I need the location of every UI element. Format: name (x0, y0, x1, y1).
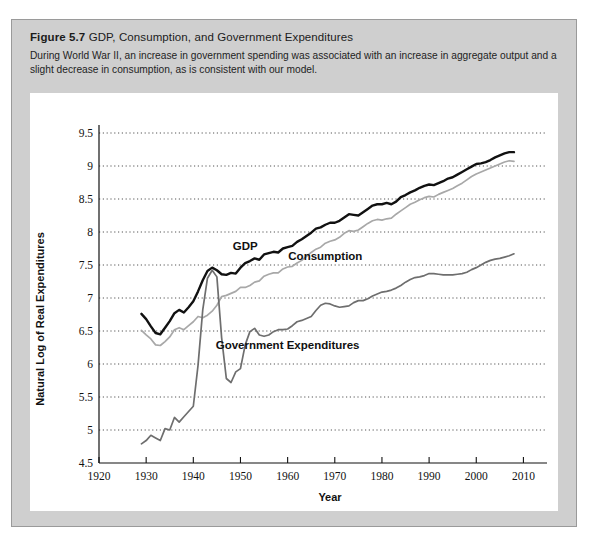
x-tick-label: 1940 (182, 470, 205, 482)
y-tick-label: 7 (87, 292, 93, 304)
x-tick-label: 1980 (370, 470, 393, 482)
x-tick-label: 1960 (276, 470, 299, 482)
x-axis-title: Year (318, 491, 342, 503)
x-axis-tick-labels: 1920193019401950196019701980199020002010 (88, 470, 536, 482)
x-axis-ticks (99, 457, 523, 463)
series-annotations: GDPConsumptionGovernment Expenditures (216, 240, 363, 350)
y-tick-label: 4.5 (79, 457, 94, 469)
y-tick-label: 8.5 (79, 193, 94, 205)
y-axis-tick-labels: 4.555.566.577.588.599.5 (79, 127, 94, 469)
y-axis-title: Natural Log of Real Expenditures (34, 232, 46, 406)
y-tick-label: 9 (87, 160, 93, 172)
annotation-consumption: Consumption (288, 250, 362, 262)
chart-plot-panel: 4.555.566.577.588.599.5 1920193019401950… (30, 93, 558, 511)
x-tick-label: 2010 (512, 470, 535, 482)
annotation-gdp: GDP (233, 240, 258, 252)
x-tick-label: 1950 (229, 470, 252, 482)
annotation-government-expenditures: Government Expenditures (216, 339, 360, 351)
x-tick-label: 1930 (135, 470, 158, 482)
y-tick-label: 5 (87, 424, 93, 436)
x-tick-label: 1970 (323, 470, 346, 482)
y-tick-label: 7.5 (79, 259, 94, 271)
series-line-gdp (141, 152, 514, 334)
figure-name: GDP, Consumption, and Government Expendi… (89, 31, 353, 43)
figure-title: Figure 5.7 GDP, Consumption, and Governm… (30, 31, 562, 43)
x-tick-label: 2000 (465, 470, 488, 482)
y-tick-label: 6.5 (79, 325, 94, 337)
gridlines (99, 133, 547, 430)
line-chart: 4.555.566.577.588.599.5 1920193019401950… (30, 93, 558, 511)
figure-header: Figure 5.7 GDP, Consumption, and Governm… (12, 20, 576, 92)
y-tick-label: 9.5 (79, 127, 94, 139)
y-tick-label: 8 (87, 226, 93, 238)
y-tick-label: 6 (87, 358, 93, 370)
y-tick-label: 5.5 (79, 391, 94, 403)
x-tick-label: 1990 (418, 470, 441, 482)
x-tick-label: 1920 (88, 470, 111, 482)
figure-number: Figure 5.7 (30, 31, 85, 43)
figure-card: Figure 5.7 GDP, Consumption, and Governm… (11, 19, 577, 527)
figure-caption: During World War II, an increase in gove… (30, 49, 558, 76)
axis-lines (99, 125, 547, 463)
